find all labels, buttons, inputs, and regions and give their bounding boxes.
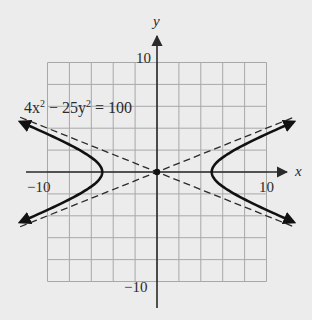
eq-term-y: − 25y <box>45 99 86 117</box>
equation-label: 4x2 − 25y2 = 100 <box>24 98 132 117</box>
x-tick-10: 10 <box>259 179 274 195</box>
hyperbola-figure: x y −10 10 10 −10 4x2 − 25y2 = 100 <box>0 0 312 320</box>
plot-area: x y −10 10 10 −10 4x2 − 25y2 = 100 <box>0 0 312 320</box>
x-tick-neg10: −10 <box>27 179 50 195</box>
y-tick-neg10: −10 <box>124 279 147 295</box>
y-tick-10: 10 <box>136 50 151 66</box>
eq-term-x: 4x <box>24 99 40 116</box>
x-axis-label: x <box>294 163 302 179</box>
y-axis-label: y <box>151 13 160 29</box>
eq-rhs: = 100 <box>91 99 132 116</box>
center-point <box>154 169 160 175</box>
